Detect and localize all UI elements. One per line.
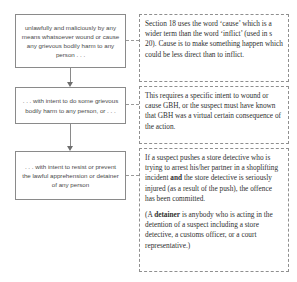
note-panel-1: Section 18 uses the word ‘cause’ which i…: [139, 14, 289, 82]
arrow-box2-to-box3: [70, 124, 71, 147]
note-text: Section 18 uses the word ‘cause’ which i…: [145, 19, 283, 59]
connector-box3-to-note3: [126, 175, 139, 176]
flow-box-element-1-label: unlawfully and maliciously by any means …: [21, 23, 120, 59]
emphasis-text: and: [170, 173, 182, 182]
note-paragraph: (A detainer is anybody who is acting in …: [145, 210, 283, 251]
note-panel-2: This requires a specific intent to wound…: [139, 86, 289, 144]
note-paragraph: This requires a specific intent to wound…: [145, 91, 283, 132]
emphasis-text: detainer: [154, 210, 180, 219]
note-panel-3: If a suspect pushes a store detective wh…: [139, 148, 289, 272]
arrow-box1-to-box2: [70, 68, 71, 83]
arrowhead-icon: [67, 146, 73, 151]
note-paragraph: If a suspect pushes a store detective wh…: [145, 153, 283, 204]
flow-box-element-2-label: . . . with intent to do some grievous bo…: [21, 96, 120, 114]
flow-box-element-3-label: . . . with intent to resist or prevent t…: [21, 162, 120, 189]
note-text: (A: [145, 210, 154, 219]
arrowhead-icon: [67, 82, 73, 87]
connector-box2-to-note2: [126, 104, 139, 105]
connector-box1-to-note1: [126, 40, 139, 41]
flow-box-element-2: . . . with intent to do some grievous bo…: [15, 87, 126, 124]
flow-box-element-3: . . . with intent to resist or prevent t…: [15, 151, 126, 200]
note-paragraph: Section 18 uses the word ‘cause’ which i…: [145, 19, 283, 60]
flowchart-diagram: unlawfully and maliciously by any means …: [0, 0, 297, 282]
note-text: This requires a specific intent to wound…: [145, 91, 281, 131]
flow-box-element-1: unlawfully and maliciously by any means …: [15, 14, 126, 68]
